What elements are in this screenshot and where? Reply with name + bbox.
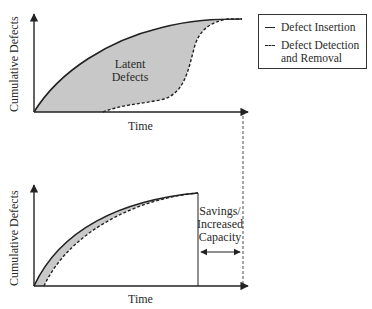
dashed-line-icon <box>265 45 275 46</box>
bottom-insertion-curve <box>34 193 198 286</box>
solid-line-icon <box>265 27 275 28</box>
bottom-latent-area <box>34 193 198 286</box>
bottom-x-axis-label: Time <box>128 293 153 306</box>
bottom-detection-curve <box>44 193 198 286</box>
bottom-y-axis-label: Cumulative Defects <box>7 190 22 286</box>
top-y-axis-label: Cumulative Defects <box>7 16 22 112</box>
savings-label-3: Capacity <box>196 231 244 244</box>
latent-defects-label-2: Defects <box>106 71 154 84</box>
top-x-axis-label: Time <box>128 120 153 133</box>
legend: Defect Insertion Defect Detection and Re… <box>258 14 367 69</box>
